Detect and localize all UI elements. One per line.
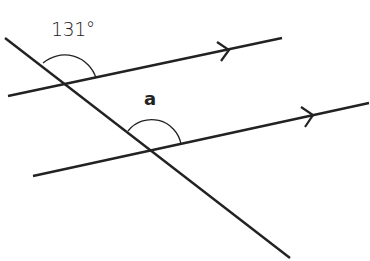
transversal-line xyxy=(5,38,290,258)
unknown-angle-label: a xyxy=(144,90,156,108)
given-angle-label: 131° xyxy=(51,20,95,39)
diagram-canvas: 131° a xyxy=(0,0,370,261)
parallel-line-lower xyxy=(33,103,369,176)
